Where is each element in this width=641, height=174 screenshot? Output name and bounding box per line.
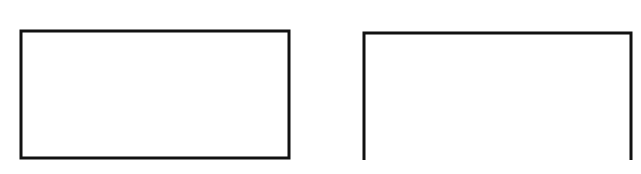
closed-rectangle-shape — [21, 31, 289, 158]
diagram-svg — [0, 0, 641, 174]
diagram-canvas — [0, 0, 641, 174]
open-bottom-rectangle-shape — [364, 33, 631, 160]
